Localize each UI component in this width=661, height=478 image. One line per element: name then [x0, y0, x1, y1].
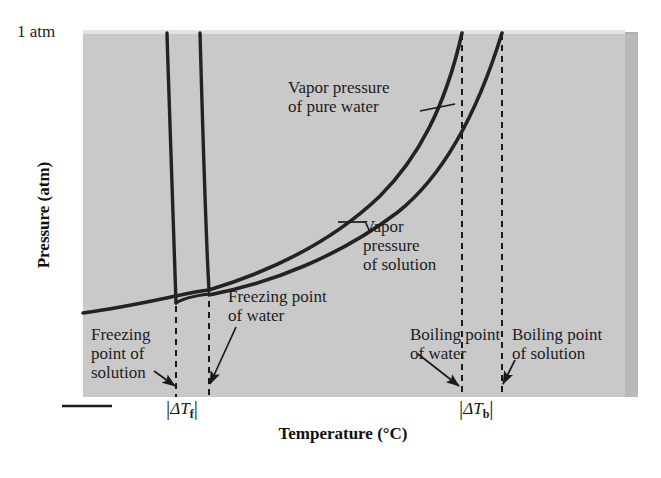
delta-tb-bracket-right: |	[489, 396, 493, 420]
delta-tf-symbol: ΔT	[170, 399, 189, 418]
sublimation-curve	[83, 290, 209, 313]
x-axis-title: Temperature (°C)	[238, 424, 448, 444]
label-freezing-point-water: Freezing point of water	[228, 287, 368, 325]
fusion-curve-solution	[167, 33, 176, 303]
plot-curves-layer	[0, 0, 661, 478]
delta-tb-symbol: ΔT	[463, 399, 482, 418]
delta-tf-label: |ΔTf|	[166, 396, 198, 422]
arrow-boiling-point-solution	[503, 360, 515, 384]
phase-diagram-figure: 1 atm Pressure (atm) Temperature (°C) Va…	[0, 0, 661, 478]
label-boiling-point-solution: Boiling point of solution	[512, 325, 632, 363]
arrow-freezing-point-water	[210, 327, 236, 384]
y-axis-tick-label-1atm: 1 atm	[17, 22, 55, 41]
label-vapor-pressure-solution: Vapor pressure of solution	[363, 217, 483, 274]
label-vapor-pressure-pure-water: Vapor pressure of pure water	[288, 78, 468, 116]
delta-tb-label: |ΔTb|	[459, 396, 494, 422]
y-axis-title: Pressure (atm)	[34, 135, 54, 295]
delta-tf-bracket-right: |	[194, 396, 198, 420]
fusion-curve-pure-water	[200, 33, 209, 290]
label-freezing-point-solution: Freezing point of solution	[91, 325, 201, 382]
